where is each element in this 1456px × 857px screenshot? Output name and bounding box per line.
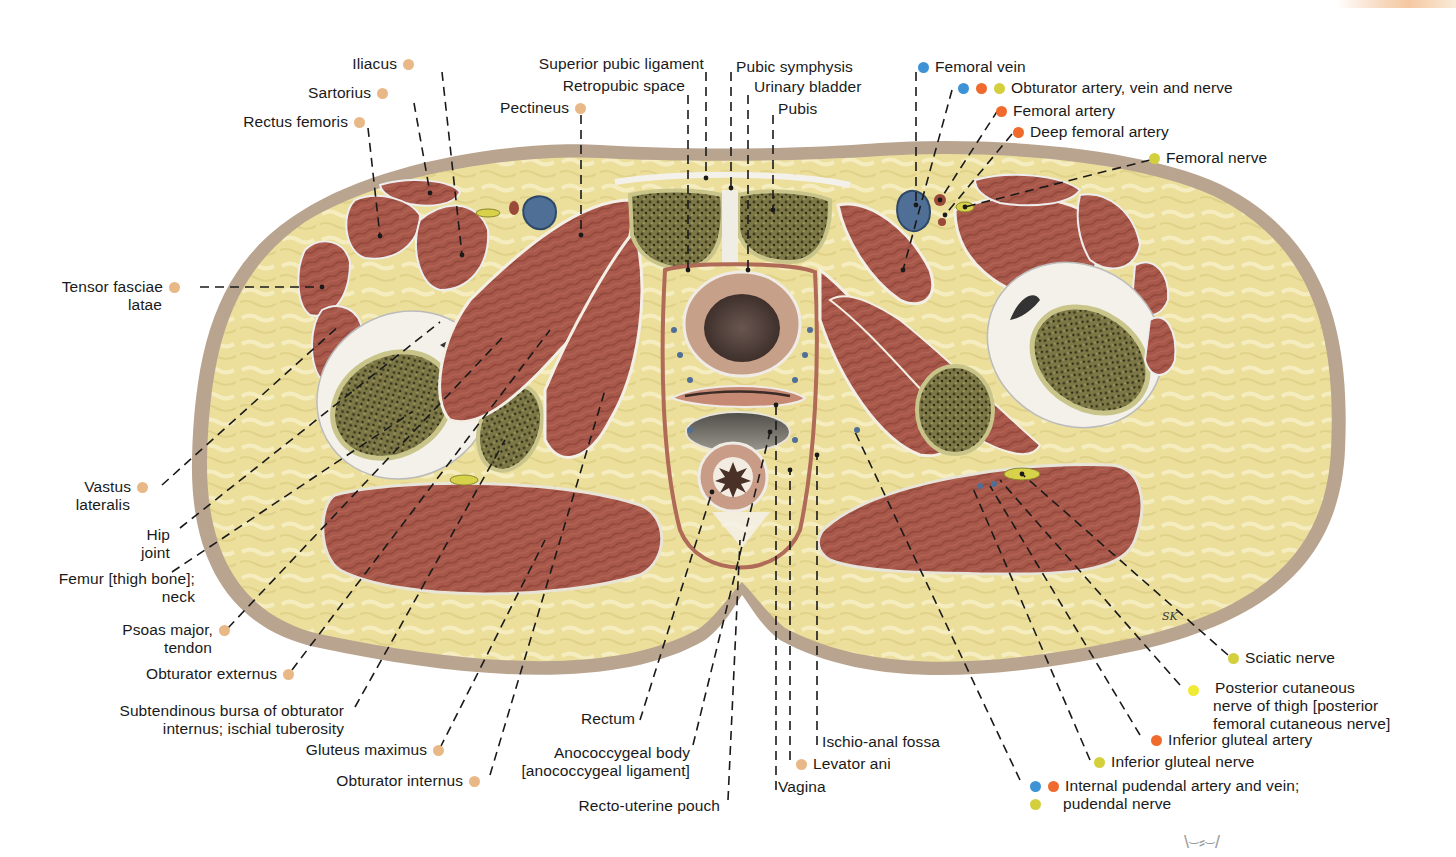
label-inferior-gluteal-nerve: Inferior gluteal nerve [1094, 753, 1255, 771]
label-pubic-symphysis: Pubic symphysis [736, 58, 853, 76]
label-ischio-anal-fossa: Ischio-anal fossa [822, 733, 940, 751]
label-sartorius: Sartorius [308, 84, 394, 102]
nerve-dot-icon [1030, 799, 1041, 810]
label-vagina: Vagina [778, 778, 826, 796]
label-urinary-bladder: Urinary bladder [754, 78, 861, 96]
artery-dot-icon [996, 106, 1007, 117]
label-rectus-femoris: Rectus femoris [243, 113, 371, 131]
artery-dot-icon [1013, 127, 1024, 138]
vein-dot-icon [1030, 781, 1041, 792]
nerve-dot-icon [1149, 153, 1160, 164]
nerve-dot-icon [1188, 685, 1199, 696]
vastus-lateralis-right [1145, 317, 1175, 375]
label-tensor-fasciae-latae: Tensor fasciae latae [62, 278, 186, 314]
label-femoral-vein: Femoral vein [918, 58, 1026, 76]
label-psoas-major-tendon: Psoas major, tendon [122, 621, 236, 657]
label-subtendinous-bursa: Subtendinous bursa of obturator internus… [119, 702, 344, 738]
label-internal-pudendal: Internal pudendal artery and vein; puden… [1030, 777, 1299, 813]
deep-femoral-artery-right [938, 218, 946, 226]
label-recto-uterine-pouch: Recto-uterine pouch [579, 797, 720, 815]
vein-dot-icon [918, 62, 929, 73]
label-sciatic-nerve: Sciatic nerve [1228, 649, 1335, 667]
muscle-dot-icon [354, 117, 365, 128]
urinary-bladder-lumen [704, 294, 780, 362]
label-iliacus: Iliacus [352, 55, 420, 73]
label-posterior-cutaneous-nerve: Posterior cutaneous nerve of thigh [post… [1188, 679, 1390, 733]
femoral-nerve-left [476, 209, 500, 217]
label-hip-joint: Hip joint [141, 526, 170, 562]
pubis-right [738, 191, 830, 262]
label-pectineus: Pectineus [500, 99, 592, 117]
label-pubis: Pubis [778, 100, 817, 118]
sciatic-nerve-left [450, 475, 478, 485]
label-rectum: Rectum [581, 710, 635, 728]
muscle-dot-icon [137, 482, 148, 493]
muscle-dot-icon [283, 669, 294, 680]
anatomy-figure: SK \⌣⸗⌣/ Iliacus Sartorius Rectus femori… [0, 0, 1456, 857]
nerve-dot-icon [994, 83, 1005, 94]
label-inferior-gluteal-artery: Inferior gluteal artery [1151, 731, 1312, 749]
artery-dot-icon [1048, 781, 1059, 792]
footer-mark: \⌣⸗⌣/ [1184, 832, 1219, 853]
label-deep-femoral-artery: Deep femoral artery [1013, 123, 1169, 141]
label-femoral-artery: Femoral artery [996, 102, 1115, 120]
muscle-dot-icon [469, 776, 480, 787]
label-levator-ani: Levator ani [796, 755, 891, 773]
muscle-dot-icon [796, 759, 807, 770]
artist-signature: SK [1162, 610, 1178, 623]
label-obturator-externus: Obturator externus [146, 665, 300, 683]
muscle-dot-icon [575, 103, 586, 114]
pubic-symphysis [722, 190, 738, 262]
muscle-dot-icon [433, 745, 444, 756]
ischium-right [917, 366, 993, 454]
artery-dot-icon [1151, 735, 1162, 746]
label-obturator-internus: Obturator internus [336, 772, 486, 790]
pubis-left [630, 190, 723, 268]
label-femur-neck: Femur [thigh bone]; neck [59, 570, 195, 606]
femoral-vein-right [897, 191, 930, 231]
vein-dot-icon [958, 83, 969, 94]
femoral-vein-left [523, 196, 556, 229]
label-vastus-lateralis: Vastus lateralis [76, 478, 154, 514]
nerve-dot-icon [1228, 653, 1239, 664]
muscle-dot-icon [403, 59, 414, 70]
nerve-dot-icon [1094, 757, 1105, 768]
femoral-artery-left [509, 201, 519, 215]
label-superior-pubic-ligament: Superior pubic ligament [539, 55, 704, 73]
artery-dot-icon [976, 83, 987, 94]
muscle-dot-icon [219, 625, 230, 636]
gluteus-maximus-left [323, 483, 662, 594]
label-retropubic-space: Retropubic space [563, 77, 685, 95]
muscle-dot-icon [169, 282, 180, 293]
label-anococcygeal-body: Anococcygeal body [anococcygeal ligament… [521, 744, 690, 780]
label-femoral-nerve: Femoral nerve [1149, 149, 1267, 167]
muscle-dot-icon [377, 88, 388, 99]
label-gluteus-maximus: Gluteus maximus [306, 741, 450, 759]
label-obturator-avn: Obturator artery, vein and nerve [958, 79, 1233, 97]
